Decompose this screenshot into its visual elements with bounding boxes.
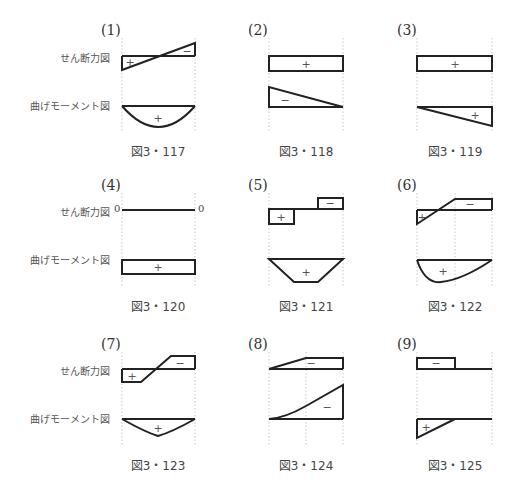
plus-sign: + <box>450 58 459 71</box>
panel-6-moment-diagram <box>417 260 492 282</box>
plus-sign: + <box>438 265 447 278</box>
guide-lines <box>122 38 492 446</box>
plus-sign: + <box>417 211 426 224</box>
plus-sign: + <box>153 422 162 435</box>
plus-sign: + <box>301 58 310 71</box>
diagram-canvas: + − + + − + + + + − + + − + + − + − − − … <box>0 0 511 485</box>
panel-6-shear-diagram <box>417 199 492 224</box>
panel-9-shear-diagram <box>417 358 492 369</box>
minus-sign: − <box>465 198 474 211</box>
plus-sign: + <box>276 211 285 224</box>
sign-labels: + − + + − + + + + − + + − + + − + − − − … <box>125 45 479 435</box>
plus-sign: + <box>470 109 479 122</box>
plus-sign: + <box>421 421 430 434</box>
plus-sign: + <box>153 112 162 125</box>
minus-sign: − <box>322 401 331 414</box>
panel-3-moment-diagram <box>417 107 492 126</box>
minus-sign: − <box>175 357 184 370</box>
plus-sign: + <box>125 56 134 69</box>
minus-sign: − <box>325 197 334 210</box>
plus-sign: + <box>127 370 136 383</box>
minus-sign: − <box>431 357 440 370</box>
plus-sign: + <box>301 266 310 279</box>
plus-sign: + <box>153 261 162 274</box>
minus-sign: − <box>306 357 315 370</box>
minus-sign: − <box>280 94 289 107</box>
minus-sign: − <box>182 45 191 58</box>
